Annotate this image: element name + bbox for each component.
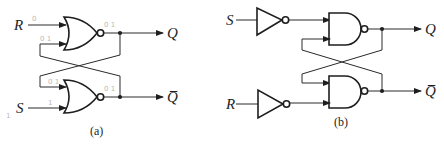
upper-nand-bubble	[361, 26, 367, 32]
qbar-label: Q̅	[425, 83, 436, 99]
r-label: R	[13, 17, 23, 33]
upper-nor-gate	[64, 17, 97, 50]
caption-b: (b)	[334, 115, 348, 129]
s-label: S	[16, 100, 24, 116]
latch-diagrams: R S Q Q̅ (a) 0 0 1 0 1 0 1 0 1 1 1	[0, 0, 444, 147]
pencil-note: 0 1	[48, 78, 59, 86]
upper-inverter-bubble	[282, 17, 288, 23]
r-label: R	[225, 96, 235, 112]
q-label: Q	[425, 21, 436, 37]
lower-nand-bubble	[361, 88, 367, 94]
pencil-note: 0 1	[104, 85, 115, 93]
s-label: S	[226, 12, 234, 28]
nand-latch-b: S R Q Q̅ (b)	[225, 8, 436, 129]
pencil-note: 0 1	[104, 21, 115, 29]
lower-nor-bubble	[97, 94, 103, 100]
lower-nand-gate	[329, 76, 361, 108]
pencil-note: 0 1	[40, 35, 51, 43]
upper-feedback-wire	[302, 39, 330, 50]
pencil-note: 1	[48, 99, 52, 107]
nor-latch-a: R S Q Q̅ (a) 0 0 1 0 1 0 1 0 1 1 1	[6, 15, 178, 138]
caption-a: (a)	[90, 124, 103, 138]
pencil-note: 0	[32, 15, 36, 23]
upper-nor-bubble	[97, 30, 103, 36]
lower-nor-gate	[64, 80, 97, 113]
q-label: Q	[167, 25, 178, 41]
upper-feedback-wire	[40, 44, 66, 56]
qbar-junction-dot	[118, 95, 122, 99]
qbar-label: Q̅	[167, 89, 178, 105]
upper-inverter	[257, 8, 282, 35]
upper-nand-gate	[329, 13, 361, 45]
lower-inverter	[258, 90, 283, 118]
lower-inverter-bubble	[283, 101, 289, 107]
qbar-junction-dot	[380, 89, 384, 93]
pencil-note: 1	[6, 112, 10, 120]
